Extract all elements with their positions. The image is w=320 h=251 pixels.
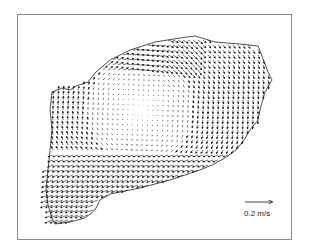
scale-label: 0.2 m/s (244, 209, 270, 218)
velocity-vectors (41, 40, 270, 223)
basin-outline (46, 36, 272, 224)
